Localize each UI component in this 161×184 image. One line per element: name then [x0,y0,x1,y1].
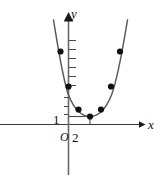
graph-canvas [0,0,161,184]
y-axis-label: y [71,7,77,20]
y-axis-ticks [64,41,76,115]
x-tick-label-2: 2 [72,131,79,144]
data-point [87,113,93,119]
data-point-group [57,48,123,119]
parabola-curve [54,20,128,117]
parabola-figure: y x 1 2 O [0,0,161,184]
origin-label: O [60,131,69,143]
data-point [108,83,114,89]
x-axis-label: x [148,118,154,131]
data-point [117,48,123,54]
data-point [65,83,71,89]
data-point [75,106,81,112]
data-point [57,48,63,54]
y-tick-label-1: 1 [53,113,60,126]
data-point [98,106,104,112]
